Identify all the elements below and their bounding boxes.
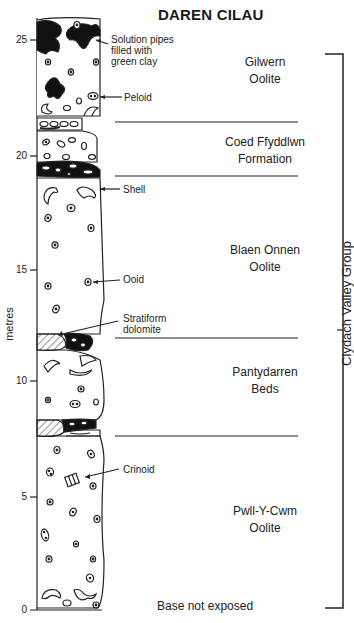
unit-pantydarren-beds: PantydarrenBeds [190,364,340,398]
unit-gilwern-oolite: GilwernOolite [190,54,340,88]
tick-label-20: 20 [5,150,27,161]
base-note: Base not exposed [157,599,253,613]
tick-label-15: 15 [5,264,27,275]
annotation-peloid: Peloid [124,92,152,103]
tick-label-0: 0 [5,604,27,615]
annotation-crinoid: Crinoid [123,464,155,475]
tick-label-5: 5 [5,491,27,502]
annotation-shell: Shell [123,184,145,195]
group-label: Clydach Valley Group [339,234,354,374]
annotation-stratiform-dolomite: Stratiform dolomite [123,313,166,335]
y-axis-label: metres [3,307,15,341]
arrow-dolomite [58,321,118,335]
unit-pwll-y-cwm-oolite: Pwll-Y-CwmOolite [190,503,340,537]
unit-coed-ffyddlwn-formation: Coed FfyddlwnFormation [190,134,340,168]
annotation-solution-pipes: Solution pipes filled with green clay [111,34,174,67]
annotation-ooid: Ooid [123,274,144,285]
tick-label-25: 25 [5,34,27,45]
tick-label-10: 10 [5,375,27,386]
arrow-crinoid [85,469,119,477]
unit-blaen-onnen-oolite: Blaen OnnenOolite [190,242,340,276]
